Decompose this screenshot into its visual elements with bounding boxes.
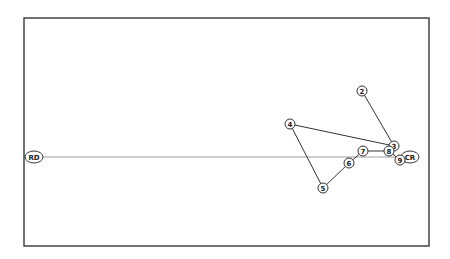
node-9: 9 [395,155,405,165]
node-8: 8 [384,146,394,156]
node-rd: RD [25,151,43,163]
node-5: 5 [318,183,328,193]
node-2: 2 [357,86,367,96]
edge-2-3 [362,91,394,146]
trajectory-nodes: RDCR23456789 [25,86,419,193]
node-label: RD [28,154,39,162]
edge-3-4 [290,124,394,146]
node-label: 8 [387,148,392,156]
node-label: 4 [288,121,293,129]
edge-4-5 [290,124,323,188]
plot-frame [24,18,429,246]
node-label: 2 [360,88,365,96]
trajectory-edges [290,91,400,188]
trajectory-diagram: RDCR23456789 [0,0,450,259]
node-7: 7 [358,146,368,156]
node-label: 7 [361,148,366,156]
node-6: 6 [344,158,354,168]
node-label: 6 [347,160,352,168]
node-label: 9 [398,157,403,165]
node-label: 5 [321,185,326,193]
node-4: 4 [285,119,295,129]
node-label: CR [405,154,416,162]
